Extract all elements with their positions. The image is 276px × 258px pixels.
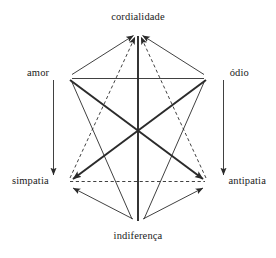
edge-amor-to-cordialidade xyxy=(72,36,134,75)
vertex-label-antipatia: antipatia xyxy=(228,176,266,187)
edge-indiferenca-to-antipatia xyxy=(143,188,203,219)
vertex-label-simpatia: simpatia xyxy=(12,176,49,187)
edge-indiferenca-to-simpatia xyxy=(73,188,133,219)
edge-indiferenca-to-amor xyxy=(71,80,132,219)
edge-odio-to-cordialidade xyxy=(143,36,205,75)
diagram-canvas xyxy=(0,0,276,258)
semiotic-hexagon-diagram: cordialidade amor ódio simpatia antipati… xyxy=(0,0,276,258)
vertex-label-odio: ódio xyxy=(230,68,249,79)
vertex-label-amor: amor xyxy=(27,68,49,79)
vertex-label-cordialidade: cordialidade xyxy=(0,12,276,23)
vertex-label-indiferenca: indiferença xyxy=(0,231,276,242)
edge-indiferenca-to-odio xyxy=(144,80,205,219)
